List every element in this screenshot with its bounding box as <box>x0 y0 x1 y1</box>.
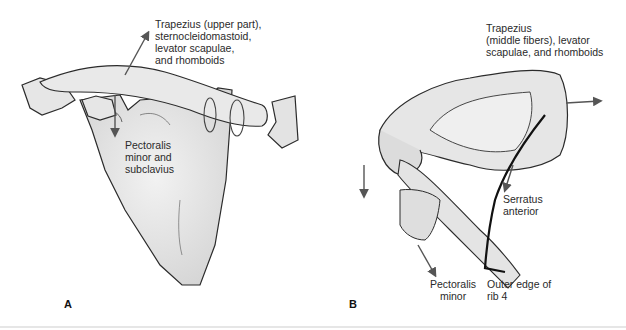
label-rib-4: Outer edge of rib 4 <box>487 278 551 302</box>
label-pectoralis-subclavius: Pectoralis minor and subclavius <box>125 139 174 175</box>
panel-letter-b: B <box>349 298 357 310</box>
label-serratus-anterior: Serratus anterior <box>503 193 543 217</box>
arrow-retraction <box>566 101 600 103</box>
panel-letter-a: A <box>64 298 72 310</box>
label-trapezius-middle: Trapezius (middle fibers), levator scapu… <box>486 22 603 58</box>
sternum-fragment <box>268 96 298 148</box>
label-trapezius-upper: Trapezius (upper part), sternocleidomast… <box>155 18 261 66</box>
label-pectoralis-minor: Pectoralis minor <box>430 278 476 302</box>
divider <box>0 326 626 328</box>
arrow-pectoralis <box>418 245 435 275</box>
